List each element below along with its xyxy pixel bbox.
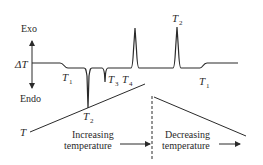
svg-text:1: 1 <box>69 78 73 86</box>
increasing-label-2: temperature <box>64 140 112 151</box>
svg-text:3: 3 <box>115 80 119 88</box>
dta-curve <box>32 27 238 108</box>
label-t4-heating: T 4 <box>122 73 133 88</box>
endo-label: Endo <box>20 93 41 104</box>
label-t1-cooling: T 1 <box>199 75 210 90</box>
decreasing-label-1: Decreasing <box>165 129 210 140</box>
svg-text:T: T <box>199 75 206 87</box>
label-t2-cooling: T 2 <box>172 12 183 27</box>
svg-text:T: T <box>83 110 90 122</box>
dta-diagram: Exo ΔT Endo T 1 T 2 T 3 T 4 T 2 T 1 T In… <box>0 0 263 165</box>
delta-t-label: ΔT <box>14 58 28 70</box>
svg-text:2: 2 <box>179 19 183 27</box>
decreasing-label-2: temperature <box>162 140 210 151</box>
svg-text:T: T <box>62 71 69 83</box>
label-t1-heating: T 1 <box>62 71 73 86</box>
label-t3-heating: T 3 <box>108 73 119 88</box>
exo-label: Exo <box>21 23 37 34</box>
temperature-label: T <box>20 126 27 138</box>
svg-text:4: 4 <box>129 80 133 88</box>
svg-text:2: 2 <box>90 117 94 125</box>
svg-text:T: T <box>172 12 179 24</box>
label-t2-heating: T 2 <box>83 110 94 125</box>
svg-text:T: T <box>108 73 115 85</box>
svg-text:T: T <box>122 73 129 85</box>
svg-text:1: 1 <box>206 82 210 90</box>
increasing-label-1: Increasing <box>72 129 114 140</box>
